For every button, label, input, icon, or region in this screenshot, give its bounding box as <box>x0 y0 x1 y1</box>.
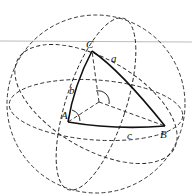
side-label-a: a <box>111 52 117 64</box>
side-a-arc <box>92 51 165 126</box>
divider-line <box>0 41 192 42</box>
radius-to-a <box>68 102 99 122</box>
side-label-c: c <box>127 129 132 141</box>
side-label-b: b <box>69 84 75 96</box>
vertex-label-c: C <box>86 38 93 50</box>
spherical-triangle-diagram: C a b A c B <box>0 0 192 196</box>
sphere-figure <box>0 0 192 196</box>
vertex-label-b: B <box>160 128 167 140</box>
vertex-label-a: A <box>61 109 68 121</box>
great-circle-ca <box>40 9 153 196</box>
great-circle-equator <box>7 74 185 146</box>
side-c-arc <box>68 122 165 127</box>
angle-a-arc <box>72 110 80 121</box>
radius-to-c <box>92 51 99 102</box>
